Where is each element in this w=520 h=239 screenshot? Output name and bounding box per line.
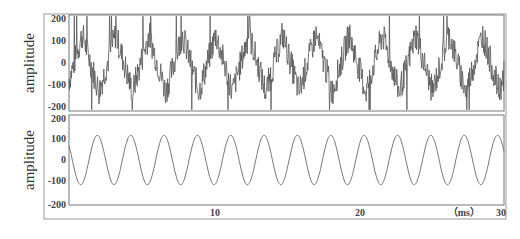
top-panel: amplitude 200 100 0 -100 -200	[21, 13, 504, 112]
top-ytick-neg100: -100	[48, 79, 66, 90]
top-ylabel: amplitude	[21, 33, 37, 93]
xtick-10: 10	[210, 207, 220, 218]
bottom-ytick-0: 0	[61, 154, 66, 165]
top-yticks: 200 100 0 -100 -200	[48, 13, 66, 112]
bottom-ylabel: amplitude	[21, 130, 37, 190]
bottom-yticks: 200 100 0 -100 -200	[48, 113, 66, 210]
bottom-panel: amplitude 200 100 0 -100 -200	[21, 113, 504, 210]
bottom-ytick-100: 100	[51, 133, 66, 144]
top-ytick-neg200: -200	[48, 101, 66, 112]
bottom-ytick-neg100: -100	[48, 175, 66, 186]
top-ytick-0: 0	[61, 57, 66, 68]
xtick-20: 20	[355, 207, 365, 218]
xtick-30: 30	[496, 207, 506, 218]
x-axis: 10 20 （ms） 30	[210, 206, 506, 218]
bottom-ytick-200: 200	[51, 113, 66, 124]
figure: amplitude 200 100 0 -100 -200 amplitude …	[0, 0, 520, 239]
bottom-ytick-neg200: -200	[48, 199, 66, 210]
x-unit-label: （ms）	[448, 206, 480, 218]
top-ytick-200: 200	[51, 13, 66, 24]
top-ytick-100: 100	[51, 35, 66, 46]
